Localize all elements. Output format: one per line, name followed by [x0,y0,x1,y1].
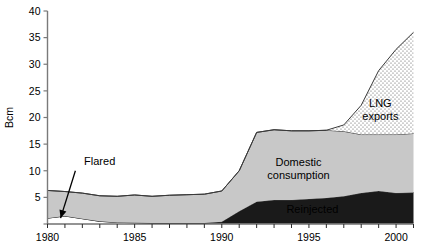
y-axis-title: Bcm [3,107,15,128]
x-tick-label: 1995 [297,231,321,243]
y-tick-label: 35 [29,31,41,43]
y-tick-label: 30 [29,58,41,70]
reinjected-label-line: Reinjected [286,203,338,215]
y-tick-label: 5 [35,191,41,203]
lng-exports-label-line: exports [362,110,399,122]
plot-areas [48,32,414,224]
domestic-consumption-label-line: Domestic [276,156,322,168]
domestic-consumption-label-line: consumption [267,169,329,181]
x-tick-label: 1990 [210,231,234,243]
chart-canvas: 51015202530354019801985199019952000 BcmD… [0,0,425,249]
lng-exports-label-line: LNG [369,97,392,109]
x-tick-label: 2000 [384,231,408,243]
domestic-consumption-label: Domesticconsumption [267,156,329,181]
y-tick-label: 15 [29,138,41,150]
x-tick-label: 1980 [36,231,60,243]
y-tick-label: 10 [29,165,41,177]
y-tick-label: 40 [29,5,41,17]
reinjected-label: Reinjected [286,203,338,215]
area-chart: 51015202530354019801985199019952000 BcmD… [0,0,425,249]
x-tick-label: 1985 [123,231,147,243]
y-tick-label: 25 [29,85,41,97]
annotation-text: Flared [84,155,115,167]
y-tick-label: 20 [29,111,41,123]
